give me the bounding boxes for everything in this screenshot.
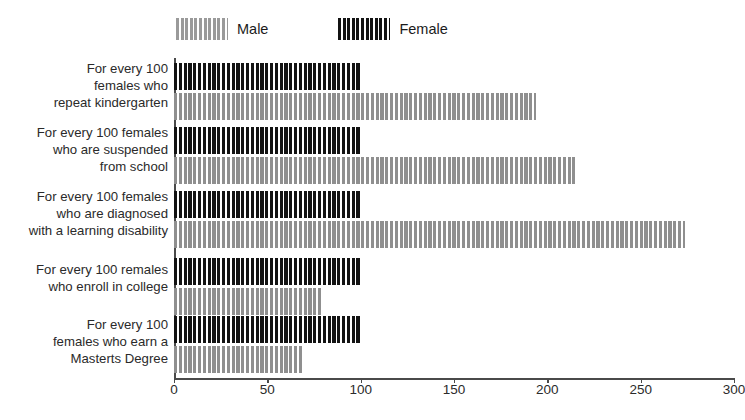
bar-female-1 [174,127,361,154]
x-tick-label-200: 200 [536,382,559,397]
y-axis-label-1: For every 100 femaleswho are suspendedfr… [0,124,168,175]
chart-legend: Male Female [176,16,448,42]
x-tick-label-0: 0 [170,382,178,397]
x-tick-label-150: 150 [443,382,466,397]
bar-female-0 [174,63,361,90]
plot-area [174,58,734,378]
y-axis-label-3: For every 100 remaleswho enroll in colle… [0,261,168,295]
bar-male-3 [174,288,321,315]
bar-group-2 [174,191,734,251]
bar-male-4 [174,346,303,373]
legend-item-female: Female [338,18,447,40]
legend-item-male: Male [176,18,268,40]
x-tick-label-250: 250 [629,382,652,397]
y-axis-label-0: For every 100females whorepeat kindergar… [0,60,168,111]
bar-male-0 [174,93,536,120]
x-tick-label-50: 50 [260,382,275,397]
bar-group-1 [174,127,734,187]
legend-swatch-female-icon [338,18,390,40]
x-tick-label-300: 300 [723,382,745,397]
bar-male-2 [174,221,685,248]
bar-group-4 [174,316,734,376]
y-axis-label-4: For every 100females who earn aMasterts … [0,316,168,367]
bar-group-3 [174,258,734,318]
legend-swatch-male-icon [176,18,228,40]
bar-female-3 [174,258,361,285]
x-tick-label-100: 100 [349,382,372,397]
legend-label-female: Female [399,22,447,37]
bar-female-4 [174,316,361,343]
bar-group-0 [174,63,734,123]
x-axis-tick-labels: 050100150200250300 [174,382,742,406]
legend-label-male: Male [237,22,268,37]
bar-female-2 [174,191,361,218]
y-axis-category-labels: For every 100females whorepeat kindergar… [0,58,168,378]
bar-male-1 [174,157,575,184]
y-axis-label-2: For every 100 femaleswho are diagnosedwi… [0,188,168,239]
